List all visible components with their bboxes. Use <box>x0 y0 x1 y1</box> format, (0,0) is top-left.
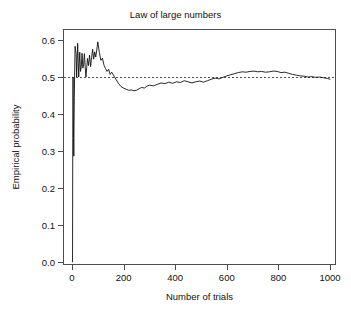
x-tick-label: 800 <box>270 272 286 283</box>
y-tick-label: 0.4 <box>42 109 55 120</box>
x-tick-label: 0 <box>69 272 74 283</box>
y-tick-label: 0.5 <box>42 72 55 83</box>
y-tick-label: 0.3 <box>42 146 55 157</box>
x-tick-label: 400 <box>167 272 183 283</box>
chart-svg: Law of large numbers 0.00.10.20.30.40.50… <box>0 0 351 320</box>
y-tick-label: 0.0 <box>42 257 55 268</box>
y-tick-label: 0.2 <box>42 183 55 194</box>
chart-figure: Law of large numbers 0.00.10.20.30.40.50… <box>0 0 351 320</box>
chart-title: Law of large numbers <box>130 9 222 20</box>
x-tick-label: 1000 <box>319 272 340 283</box>
x-tick-label: 600 <box>219 272 235 283</box>
y-axis-label: Empirical probability <box>10 104 21 189</box>
x-axis-label: Number of trials <box>166 291 233 302</box>
y-tick-label: 0.1 <box>42 220 55 231</box>
x-tick-label: 200 <box>116 272 132 283</box>
y-tick-label: 0.6 <box>42 35 55 46</box>
